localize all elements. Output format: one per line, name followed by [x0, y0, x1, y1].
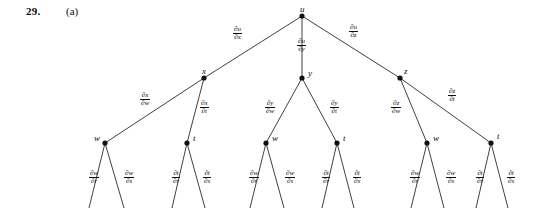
tree-node-label-w1: w	[94, 134, 100, 143]
tree-leaf-stub	[337, 143, 354, 208]
partial-derivative-label-t2-s4: ∂t∂s	[353, 170, 361, 186]
fraction-numerator: ∂x	[140, 92, 150, 99]
partial-derivative-label-z-w3: ∂z∂w	[391, 100, 401, 116]
fraction-denominator: ∂s	[124, 177, 134, 185]
fraction-denominator: ∂w	[140, 99, 150, 107]
partial-derivative-label-w2-r3: ∂w∂r	[249, 170, 259, 186]
fraction-denominator: ∂x	[233, 33, 242, 41]
tree-leaf-stub	[427, 143, 444, 208]
partial-derivative-label-w1-s1: ∂w∂s	[124, 170, 134, 186]
tree-node-label-u: u	[300, 5, 305, 14]
partial-derivative-label-w3-r5: ∂w∂r	[410, 170, 420, 186]
partial-derivative-label-z-t3: ∂z∂t	[448, 88, 456, 104]
partial-derivative-label-t3-s6: ∂t∂s	[507, 170, 515, 186]
fraction-numerator: ∂z	[448, 88, 456, 95]
partial-derivative-label-w1-r1: ∂w∂r	[89, 170, 99, 186]
fraction-denominator: ∂t	[448, 95, 456, 103]
fraction-denominator: ∂y	[297, 45, 306, 53]
fraction-numerator: ∂y	[265, 100, 275, 107]
fraction-denominator: ∂w	[265, 107, 275, 115]
fraction-numerator: ∂t	[353, 170, 361, 177]
fraction-numerator: ∂w	[89, 170, 99, 177]
partial-derivative-label-x-t1: ∂x∂t	[200, 100, 209, 116]
tree-node-label-w2: w	[272, 134, 278, 143]
fraction-numerator: ∂u	[297, 38, 306, 45]
fraction-numerator: ∂u	[233, 26, 242, 33]
tree-node-label-t2: t	[343, 134, 346, 143]
tree-node-dot-w1	[102, 140, 107, 145]
partial-derivative-label-t2-r4: ∂t∂r	[322, 170, 330, 186]
tree-node-dot-w2	[263, 140, 268, 145]
tree-node-dot-w3	[424, 140, 429, 145]
fraction-numerator: ∂t	[203, 170, 211, 177]
tree-node-label-z: z	[404, 67, 408, 76]
fraction-denominator: ∂t	[200, 107, 209, 115]
tree-node-dot-z	[397, 75, 402, 80]
fraction-denominator: ∂r	[249, 177, 259, 185]
tree-node-dot-t3	[488, 140, 493, 145]
tree-edge	[204, 16, 302, 78]
tree-node-dot-x	[201, 75, 206, 80]
fraction-numerator: ∂z	[391, 100, 401, 107]
tree-node-label-y: y	[308, 69, 312, 78]
fraction-numerator: ∂t	[322, 170, 330, 177]
fraction-denominator: ∂r	[89, 177, 99, 185]
tree-leaf-stub	[266, 143, 284, 208]
diagram-page: 29. (a) uxyzwtwtwt ∂u∂x∂u∂y∂u∂z∂x∂w∂x∂t∂…	[0, 0, 535, 208]
tree-node-label-x: x	[202, 67, 206, 76]
partial-derivative-label-u-x: ∂u∂x	[233, 26, 242, 42]
fraction-numerator: ∂t	[476, 170, 484, 177]
fraction-denominator: ∂s	[507, 177, 515, 185]
fraction-numerator: ∂u	[349, 24, 358, 31]
tree-node-dot-t2	[334, 140, 339, 145]
fraction-denominator: ∂z	[349, 31, 358, 39]
tree-node-dot-t1	[184, 140, 189, 145]
fraction-denominator: ∂s	[446, 177, 456, 185]
partial-derivative-label-x-w1: ∂x∂w	[140, 92, 150, 108]
fraction-denominator: ∂t	[330, 107, 339, 115]
fraction-denominator: ∂r	[172, 177, 180, 185]
fraction-numerator: ∂y	[330, 100, 339, 107]
fraction-numerator: ∂t	[172, 170, 180, 177]
fraction-numerator: ∂w	[124, 170, 134, 177]
fraction-denominator: ∂r	[476, 177, 484, 185]
fraction-numerator: ∂w	[249, 170, 259, 177]
partial-derivative-label-u-z: ∂u∂z	[349, 24, 358, 40]
tree-leaf-stub	[105, 143, 124, 208]
partial-derivative-label-t1-s2: ∂t∂s	[203, 170, 211, 186]
tree-node-dots	[102, 13, 493, 145]
fraction-numerator: ∂x	[200, 100, 209, 107]
partial-derivative-label-y-w2: ∂y∂w	[265, 100, 275, 116]
fraction-denominator: ∂w	[391, 107, 401, 115]
tree-node-label-t3: t	[497, 132, 500, 141]
fraction-denominator: ∂s	[353, 177, 361, 185]
partial-derivative-label-w2-s3: ∂w∂s	[285, 170, 295, 186]
fraction-numerator: ∂w	[410, 170, 420, 177]
fraction-numerator: ∂w	[285, 170, 295, 177]
tree-node-label-w3: w	[433, 134, 439, 143]
partial-derivative-label-y-t2: ∂y∂t	[330, 100, 339, 116]
partial-derivative-label-w3-s5: ∂w∂s	[446, 170, 456, 186]
partial-derivative-label-t1-r2: ∂t∂r	[172, 170, 180, 186]
tree-node-dot-u	[299, 13, 304, 18]
fraction-numerator: ∂w	[446, 170, 456, 177]
fraction-denominator: ∂s	[203, 177, 211, 185]
tree-node-dot-y	[299, 75, 304, 80]
tree-node-label-t1: t	[193, 134, 196, 143]
tree-edges	[105, 16, 491, 143]
fraction-denominator: ∂r	[410, 177, 420, 185]
fraction-numerator: ∂t	[507, 170, 515, 177]
fraction-denominator: ∂s	[285, 177, 295, 185]
tree-leaf-stub	[491, 143, 508, 208]
fraction-denominator: ∂r	[322, 177, 330, 185]
partial-derivative-label-u-y: ∂u∂y	[297, 38, 306, 54]
partial-derivative-label-t3-r6: ∂t∂r	[476, 170, 484, 186]
